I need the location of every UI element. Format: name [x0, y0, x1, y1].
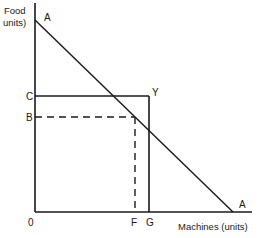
diagram-canvas — [0, 0, 261, 238]
x-point-g-label: G — [146, 218, 154, 228]
y-point-c-label: C — [26, 92, 33, 102]
curve-label-bottom: A — [239, 200, 246, 210]
corner-y-label: Y — [152, 88, 159, 98]
origin-label: 0 — [28, 218, 34, 228]
curve-label-top: A — [44, 13, 51, 23]
y-axis-label-line2: units) — [3, 18, 26, 28]
x-point-f-label: F — [131, 218, 137, 228]
y-point-b-label: B — [26, 113, 33, 123]
line-a-a — [35, 20, 233, 212]
y-axis-label-line1: Food — [4, 6, 26, 16]
x-axis-label: Machines (units) — [178, 222, 248, 232]
